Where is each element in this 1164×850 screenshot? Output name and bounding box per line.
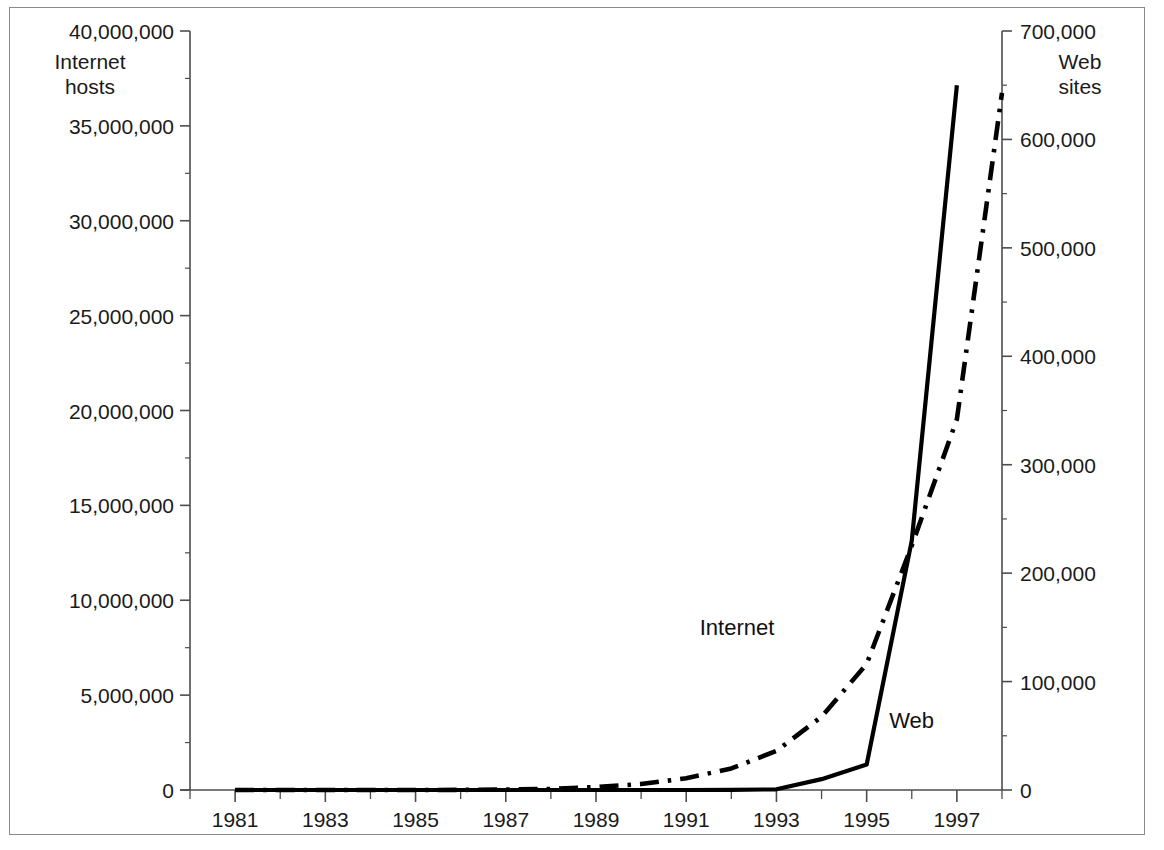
series-paths [235,85,1002,790]
tick-marks [180,31,1012,802]
left-axis-title: Internet hosts [10,49,170,99]
right-tick-label: 400,000 [1020,344,1096,369]
x-tick-label: 1983 [302,807,349,832]
left-tick-label: 35,000,000 [69,113,174,138]
x-tick-label: 1985 [392,807,439,832]
x-tick-label: 1981 [212,807,259,832]
x-tick-label: 1995 [843,807,890,832]
x-tick-label: 1993 [753,807,800,832]
series-line-internet [235,93,1002,790]
left-tick-label: 20,000,000 [69,398,174,423]
x-tick-label: 1989 [573,807,620,832]
left-tick-label: 30,000,000 [69,208,174,233]
right-tick-label: 0 [1020,778,1032,803]
x-tick-label: 1987 [482,807,529,832]
right-tick-label: 100,000 [1020,669,1096,694]
chart-figure: 40,000,00035,000,00030,000,00025,000,000… [0,0,1164,850]
x-tick-label: 1997 [934,807,981,832]
right-axis-title: Web sites [1020,49,1140,99]
right-tick-label: 300,000 [1020,452,1096,477]
left-tick-label: 0 [162,778,174,803]
x-tick-label: 1991 [663,807,710,832]
right-tick-label: 700,000 [1020,19,1096,44]
series-label-internet: Internet [700,615,775,641]
right-tick-label: 600,000 [1020,127,1096,152]
left-tick-label: 5,000,000 [81,683,174,708]
right-tick-label: 200,000 [1020,561,1096,586]
right-tick-label: 500,000 [1020,235,1096,260]
plot-area [0,0,1164,850]
series-label-web: Web [889,708,934,734]
left-tick-label: 10,000,000 [69,588,174,613]
left-tick-label: 15,000,000 [69,493,174,518]
left-tick-label: 25,000,000 [69,303,174,328]
series-line-web [235,85,957,790]
axis-lines [190,31,1002,790]
left-tick-label: 40,000,000 [69,19,174,44]
